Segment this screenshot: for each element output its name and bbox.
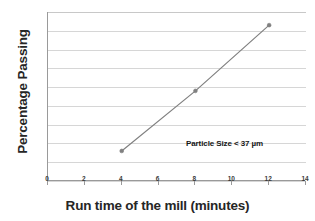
series-line-chart <box>48 12 306 181</box>
data-point-marker <box>120 149 124 153</box>
plot-area <box>47 12 305 181</box>
x-axis-tick-label: 4 <box>111 176 131 183</box>
data-point-marker <box>267 23 271 27</box>
x-axis-tick-label: 0 <box>37 176 57 183</box>
x-axis-tick-label: 14 <box>295 176 315 183</box>
chart-container: Percentage Passing 50556065707580859095 … <box>0 0 315 221</box>
x-axis-tick-label: 2 <box>74 176 94 183</box>
x-axis-title: Run time of the mill (minutes) <box>0 198 315 213</box>
y-axis-title: Percentage Passing <box>15 12 30 172</box>
x-axis-tick-label: 6 <box>148 176 168 183</box>
x-axis-tick-label: 12 <box>258 176 278 183</box>
data-point-marker <box>194 89 198 93</box>
annotation-particle-size: Particle Size < 37 µm <box>186 139 263 148</box>
x-axis-tick-label: 8 <box>184 176 204 183</box>
series-line <box>122 25 269 151</box>
x-axis-tick-label: 10 <box>221 176 241 183</box>
